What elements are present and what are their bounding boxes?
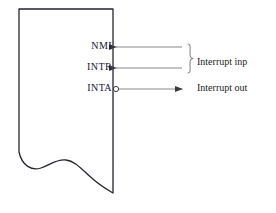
- annotation-interrupt-inputs: Interrupt inp: [197, 56, 247, 67]
- pin-label-intr: INTR: [64, 61, 112, 72]
- processor-block-outline: [19, 9, 113, 193]
- annotation-interrupt-output: Interrupt out: [197, 82, 247, 93]
- pin-label-nmi: NMI: [64, 40, 112, 51]
- interrupt-pin-diagram: NMI INTR INTA Interrupt inp Interrupt ou…: [0, 0, 276, 213]
- inversion-bubble-icon: [113, 86, 118, 91]
- pin-label-inta: INTA: [64, 82, 112, 93]
- grouping-brace-icon: [188, 44, 194, 73]
- diagram-canvas: [0, 0, 276, 213]
